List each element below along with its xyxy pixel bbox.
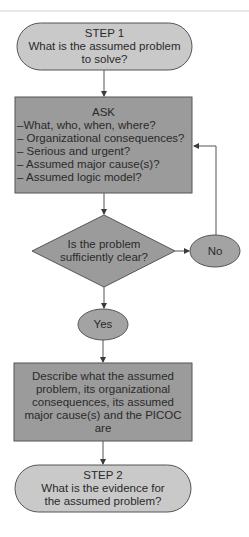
no-label: No (208, 245, 223, 258)
describe-line: problem, its organizational (36, 383, 170, 396)
decision-line2: sufficiently clear? (60, 251, 148, 264)
step1-terminal: STEP 1 What is the assumed problem to so… (17, 23, 192, 70)
step1-line2: to solve? (81, 53, 127, 66)
step2-terminal: STEP 2 What is the evidence for the assu… (15, 465, 191, 512)
no-ellipse: No (190, 235, 240, 267)
flowchart-canvas: STEP 1 What is the assumed problem to so… (0, 0, 249, 537)
ask-process-box: ASK –What, who, when, where? – Organizat… (17, 99, 190, 191)
describe-line: Describe what the assumed (32, 370, 174, 383)
yes-label: Yes (94, 318, 113, 331)
ask-item: –What, who, when, where? (17, 119, 156, 132)
describe-line: consequences, its assumed (32, 396, 174, 409)
describe-line: are (95, 422, 112, 435)
decision-line1: Is the problem (68, 238, 141, 251)
arrow-no-feedback-to-ask (194, 146, 216, 235)
step1-line1: What is the assumed problem (28, 40, 180, 53)
ask-item: – Organizational consequences? (17, 132, 185, 145)
decision-diamond: Is the problem sufficiently clear? (50, 235, 158, 267)
ask-item: – Assumed logic model? (17, 171, 142, 184)
describe-process-box: Describe what the assumed problem, its o… (14, 365, 192, 439)
ask-item: – Assumed major cause(s)? (17, 158, 160, 171)
flowchart-graphics (0, 0, 249, 537)
describe-line: major cause(s) and the PICOC (24, 409, 181, 422)
ask-heading: ASK (92, 106, 115, 119)
step2-line2: the assumed problem? (45, 495, 162, 508)
step2-heading: STEP 2 (83, 469, 122, 482)
step1-heading: STEP 1 (85, 27, 124, 40)
ask-item: – Serious and urgent? (17, 145, 130, 158)
yes-ellipse: Yes (78, 309, 128, 340)
step2-line1: What is the evidence for (41, 482, 164, 495)
